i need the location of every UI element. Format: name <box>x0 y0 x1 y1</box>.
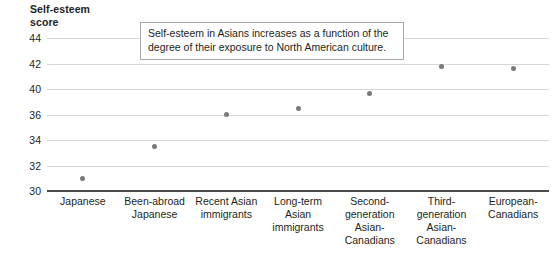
data-point <box>439 64 444 69</box>
y-tick-label: 44 <box>19 33 41 44</box>
gridline <box>47 140 549 141</box>
x-axis-category-label: Long-term Asian immigrants <box>262 195 334 257</box>
x-axis-category-label: Third- generation Asian- Canadians <box>406 195 478 257</box>
x-axis-category-label: Second- generation Asian- Canadians <box>334 195 406 257</box>
data-point <box>152 144 157 149</box>
x-axis-category-labels: JapaneseBeen-abroad JapaneseRecent Asian… <box>47 195 549 257</box>
y-axis-tick-labels: 44424036343230 <box>17 0 41 260</box>
y-tick-label: 42 <box>19 59 41 70</box>
data-point <box>80 176 85 181</box>
y-tick-label: 36 <box>19 110 41 121</box>
plot-area <box>47 38 549 191</box>
x-axis-line <box>47 190 549 192</box>
y-tick-label: 40 <box>19 84 41 95</box>
x-axis-category-label: Been-abroad Japanese <box>119 195 191 257</box>
data-point <box>224 112 229 117</box>
y-tick-label: 34 <box>19 135 41 146</box>
data-point <box>511 66 516 71</box>
y-tick-label: 32 <box>19 161 41 172</box>
gridline <box>47 89 549 90</box>
x-axis-category-label: Japanese <box>47 195 119 257</box>
x-axis-category-label: Recent Asian immigrants <box>190 195 262 257</box>
y-tick-label: 30 <box>19 186 41 197</box>
self-esteem-scatter-chart: Self-esteem score 44424036343230 Self-es… <box>0 0 559 260</box>
gridline <box>47 64 549 65</box>
gridline <box>47 115 549 116</box>
gridline <box>47 166 549 167</box>
data-point <box>296 106 301 111</box>
annotation-callout: Self-esteem in Asians increases as a fun… <box>140 22 404 60</box>
data-point <box>367 91 372 96</box>
x-axis-category-label: European- Canadians <box>477 195 549 257</box>
